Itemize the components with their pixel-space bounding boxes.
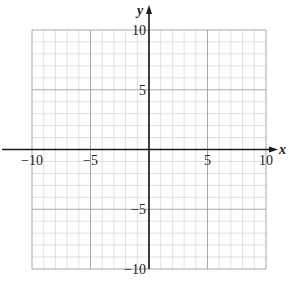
y-tick-label: 10	[132, 23, 146, 38]
x-tick-label: 10	[259, 153, 273, 168]
x-tick-label: −10	[21, 153, 43, 168]
y-tick-label: −5	[131, 202, 146, 217]
y-tick-label: 5	[139, 83, 146, 98]
x-tick-label: 5	[204, 153, 211, 168]
coordinate-plane: −10−5510105−5−10 x y	[0, 0, 304, 289]
y-axis-arrow-icon	[146, 5, 152, 14]
y-tick-label: −10	[124, 262, 146, 277]
x-axis-label: x	[278, 142, 286, 157]
x-tick-label: −5	[83, 153, 98, 168]
y-axis-label: y	[135, 3, 144, 18]
